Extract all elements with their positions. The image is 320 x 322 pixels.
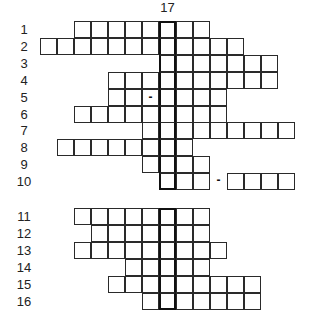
- letter-cell[interactable]: [261, 72, 278, 89]
- letter-cell[interactable]: [125, 139, 142, 156]
- letter-cell[interactable]: [108, 21, 125, 38]
- letter-cell[interactable]: [108, 208, 125, 225]
- letter-cell[interactable]: [176, 89, 193, 106]
- letter-cell[interactable]: [193, 106, 210, 123]
- letter-cell[interactable]: [278, 122, 295, 139]
- letter-cell[interactable]: [176, 259, 193, 276]
- letter-cell[interactable]: [193, 208, 210, 225]
- letter-cell[interactable]: [108, 276, 125, 293]
- letter-cell[interactable]: [244, 276, 261, 293]
- letter-cell[interactable]: [193, 21, 210, 38]
- letter-cell[interactable]: [142, 139, 159, 156]
- letter-cell[interactable]: [193, 72, 210, 89]
- letter-cell[interactable]: [176, 276, 193, 293]
- letter-cell[interactable]: [142, 21, 159, 38]
- letter-cell[interactable]: [125, 276, 142, 293]
- key-column-cell[interactable]: [159, 173, 176, 190]
- letter-cell[interactable]: [91, 208, 108, 225]
- letter-cell[interactable]: [227, 173, 244, 190]
- letter-cell[interactable]: [210, 276, 227, 293]
- letter-cell[interactable]: [125, 38, 142, 55]
- letter-cell[interactable]: [176, 106, 193, 123]
- letter-cell[interactable]: [108, 38, 125, 55]
- letter-cell[interactable]: [142, 276, 159, 293]
- letter-cell[interactable]: [142, 156, 159, 173]
- letter-cell[interactable]: [227, 72, 244, 89]
- letter-cell[interactable]: [125, 208, 142, 225]
- letter-cell[interactable]: [227, 293, 244, 310]
- key-column-cell[interactable]: [159, 208, 176, 225]
- letter-cell[interactable]: [125, 21, 142, 38]
- letter-cell[interactable]: [176, 173, 193, 190]
- letter-cell[interactable]: [176, 139, 193, 156]
- letter-cell[interactable]: [176, 293, 193, 310]
- letter-cell[interactable]: [210, 106, 227, 123]
- letter-cell[interactable]: [176, 38, 193, 55]
- letter-cell[interactable]: [193, 225, 210, 242]
- letter-cell[interactable]: [210, 55, 227, 72]
- key-column-cell[interactable]: [159, 156, 176, 173]
- letter-cell[interactable]: [108, 242, 125, 259]
- letter-cell[interactable]: [193, 276, 210, 293]
- key-column-cell[interactable]: [159, 259, 176, 276]
- letter-cell[interactable]: [261, 55, 278, 72]
- letter-cell[interactable]: [142, 38, 159, 55]
- letter-cell[interactable]: [74, 208, 91, 225]
- letter-cell[interactable]: [244, 173, 261, 190]
- key-column-cell[interactable]: [159, 225, 176, 242]
- letter-cell[interactable]: [142, 259, 159, 276]
- letter-cell[interactable]: [176, 122, 193, 139]
- letter-cell[interactable]: [142, 242, 159, 259]
- letter-cell[interactable]: [108, 72, 125, 89]
- letter-cell[interactable]: [261, 122, 278, 139]
- key-column-cell[interactable]: [159, 276, 176, 293]
- letter-cell[interactable]: [227, 38, 244, 55]
- letter-cell[interactable]: [176, 156, 193, 173]
- letter-cell[interactable]: [108, 89, 125, 106]
- letter-cell[interactable]: [40, 38, 57, 55]
- letter-cell[interactable]: [142, 122, 159, 139]
- letter-cell[interactable]: [91, 21, 108, 38]
- letter-cell[interactable]: [193, 55, 210, 72]
- letter-cell[interactable]: [57, 38, 74, 55]
- letter-cell[interactable]: [278, 173, 295, 190]
- key-column-cell[interactable]: [159, 106, 176, 123]
- letter-cell[interactable]: [142, 293, 159, 310]
- key-column-cell[interactable]: [159, 89, 176, 106]
- key-column-cell[interactable]: [159, 122, 176, 139]
- letter-cell[interactable]: [125, 242, 142, 259]
- letter-cell[interactable]: [244, 55, 261, 72]
- letter-cell[interactable]: [125, 72, 142, 89]
- key-column-cell[interactable]: [159, 293, 176, 310]
- letter-cell[interactable]: [176, 55, 193, 72]
- letter-cell[interactable]: [193, 242, 210, 259]
- letter-cell[interactable]: [244, 293, 261, 310]
- key-column-cell[interactable]: [159, 242, 176, 259]
- letter-cell[interactable]: [176, 208, 193, 225]
- letter-cell[interactable]: [210, 38, 227, 55]
- key-column-cell[interactable]: [159, 21, 176, 38]
- letter-cell[interactable]: [227, 55, 244, 72]
- letter-cell[interactable]: [142, 106, 159, 123]
- letter-cell[interactable]: [91, 139, 108, 156]
- letter-cell[interactable]: [193, 122, 210, 139]
- letter-cell[interactable]: [176, 225, 193, 242]
- letter-cell[interactable]: [57, 139, 74, 156]
- letter-cell[interactable]: [227, 276, 244, 293]
- letter-cell[interactable]: [210, 72, 227, 89]
- letter-cell[interactable]: [210, 122, 227, 139]
- letter-cell[interactable]: [108, 106, 125, 123]
- letter-cell[interactable]: [193, 156, 210, 173]
- letter-cell[interactable]: [91, 242, 108, 259]
- letter-cell[interactable]: [74, 242, 91, 259]
- letter-cell[interactable]: [244, 72, 261, 89]
- letter-cell[interactable]: [193, 89, 210, 106]
- letter-cell[interactable]: [74, 139, 91, 156]
- letter-cell[interactable]: [74, 106, 91, 123]
- letter-cell[interactable]: [176, 242, 193, 259]
- letter-cell[interactable]: [193, 38, 210, 55]
- key-column-cell[interactable]: [159, 139, 176, 156]
- letter-cell[interactable]: [91, 38, 108, 55]
- letter-cell[interactable]: [91, 225, 108, 242]
- letter-cell[interactable]: [125, 259, 142, 276]
